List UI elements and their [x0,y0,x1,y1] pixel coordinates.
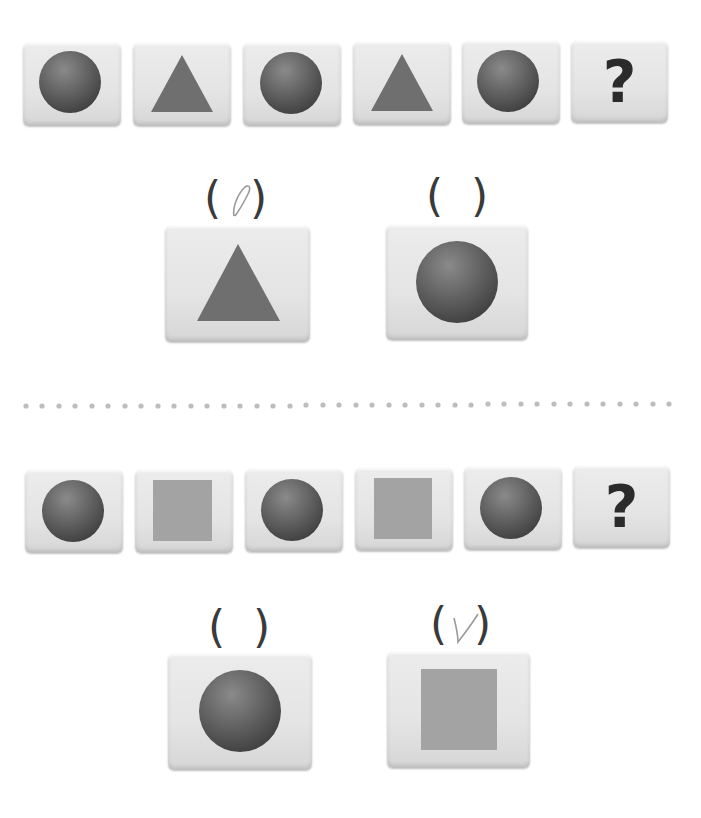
circle-icon [464,467,562,550]
seq-tile-square [135,470,233,553]
seq-tile-circle [25,470,123,553]
option-tile-square[interactable] [387,652,530,768]
question-mark-icon: ? [573,473,670,541]
paren-open: ( [430,602,447,646]
seq-tile-square [355,468,453,551]
seq-tile-circle [464,467,562,550]
seq-tile-circle [245,469,343,552]
circle-icon [245,469,343,552]
circle-icon [25,470,123,553]
dotted-separator [0,0,701,818]
option-tile-circle[interactable] [168,654,312,770]
seq-tile-question: ? [573,466,670,548]
paren-close: ) [474,602,491,646]
square-icon [355,468,453,551]
circle-icon [168,654,312,770]
paren-open: ( [208,605,225,649]
square-icon [135,470,233,553]
square-icon [387,652,530,768]
paren-close: ) [253,605,270,649]
